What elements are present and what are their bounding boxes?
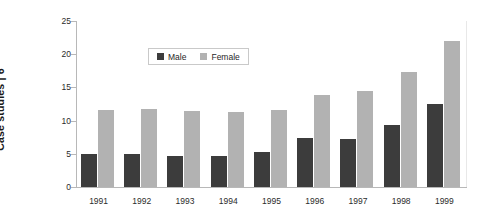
chart-legend: Male Female — [148, 48, 249, 65]
bar-group — [250, 21, 293, 187]
legend-label-male: Male — [168, 52, 186, 62]
x-axis-label-1999: 1999 — [423, 196, 466, 206]
bar-group — [163, 21, 206, 187]
legend-swatch-male-icon — [157, 53, 164, 60]
x-axis-label-1998: 1998 — [380, 196, 423, 206]
bar-female-1992 — [141, 109, 157, 187]
y-axis-title-text: Case studies | 6 — [0, 68, 40, 151]
x-axis-label-1994: 1994 — [207, 196, 250, 206]
bar-female-1995 — [271, 110, 287, 187]
bar-female-1994 — [228, 112, 244, 187]
x-axis-label-1992: 1992 — [120, 196, 163, 206]
bar-male-1995 — [254, 152, 270, 187]
x-axis-label-1996: 1996 — [293, 196, 336, 206]
bar-group — [207, 21, 250, 187]
bar-male-1991 — [81, 154, 97, 187]
bar-female-1998 — [401, 72, 417, 187]
bar-male-1992 — [124, 154, 140, 187]
bar-male-1996 — [297, 138, 313, 187]
bar-group — [77, 21, 120, 187]
legend-item-male: Male — [157, 52, 186, 62]
legend-swatch-female-icon — [200, 53, 207, 60]
y-axis-title: Case studies | 6 — [0, 0, 34, 219]
legend-item-female: Female — [200, 52, 239, 62]
bar-male-1997 — [340, 139, 356, 187]
bar-female-1999 — [444, 41, 460, 187]
bar-group — [423, 21, 466, 187]
bar-male-1999 — [427, 104, 443, 187]
x-axis-label-1993: 1993 — [163, 196, 206, 206]
bar-male-1993 — [167, 156, 183, 187]
bar-group — [380, 21, 423, 187]
bar-male-1998 — [384, 125, 400, 187]
x-axis-label-1991: 1991 — [77, 196, 120, 206]
bar-group — [336, 21, 379, 187]
bar-male-1994 — [211, 156, 227, 187]
bar-group — [120, 21, 163, 187]
bar-female-1991 — [98, 110, 114, 187]
bar-group — [293, 21, 336, 187]
bar-female-1996 — [314, 95, 330, 187]
plot-right-border — [466, 21, 467, 187]
bar-chart: Case studies | 6 0510152025 199119921993… — [0, 0, 483, 219]
bar-female-1993 — [184, 111, 200, 187]
x-axis-label-1997: 1997 — [336, 196, 379, 206]
legend-label-female: Female — [211, 52, 239, 62]
bar-female-1997 — [357, 91, 373, 187]
x-axis-label-1995: 1995 — [250, 196, 293, 206]
bars-layer — [77, 21, 466, 187]
